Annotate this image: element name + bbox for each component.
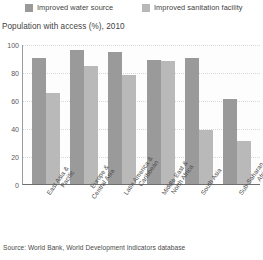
bar-sanitation-facility: [122, 75, 136, 184]
y-axis-tick-label: 80: [11, 70, 19, 77]
y-axis-tick-label: 20: [11, 154, 19, 161]
legend-swatch-icon: [142, 4, 150, 12]
x-axis-labels: East Asia &PacificEurope &Central AsiaLa…: [22, 192, 260, 242]
source-note: Source: World Bank, World Development In…: [3, 244, 185, 251]
bar-group: [218, 45, 256, 184]
legend-label-sanitation-facility: Improved sanitation facility: [154, 3, 243, 12]
chart-subtitle: Population with access (%), 2010: [2, 22, 125, 31]
bar-group: [103, 45, 141, 184]
bar-water-source: [108, 52, 122, 184]
chart-figure: Improved water source Improved sanitatio…: [0, 0, 263, 260]
y-axis-tick-label: 100: [7, 42, 19, 49]
chart-legend: Improved water source Improved sanitatio…: [0, 3, 263, 16]
y-axis-tick-label: 60: [11, 98, 19, 105]
bar-group: [27, 45, 65, 184]
legend-swatch-icon: [25, 4, 33, 12]
bar-water-source: [32, 58, 46, 184]
legend-item-water-source: Improved water source: [25, 3, 113, 12]
legend-label-water-source: Improved water source: [37, 3, 113, 12]
legend-item-sanitation-facility: Improved sanitation facility: [142, 3, 243, 12]
bar-sanitation-facility: [46, 93, 60, 184]
y-axis-tick-label: 0: [15, 182, 19, 189]
y-axis-tick-label: 40: [11, 126, 19, 133]
y-axis-ticks: 020406080100: [0, 38, 22, 190]
bar-water-source: [223, 99, 237, 184]
bar-sanitation-facility: [161, 61, 175, 184]
bar-water-source: [70, 50, 84, 184]
bar-group: [65, 45, 103, 184]
plot-area: 020406080100: [0, 38, 263, 190]
bar-sanitation-facility: [84, 66, 98, 184]
